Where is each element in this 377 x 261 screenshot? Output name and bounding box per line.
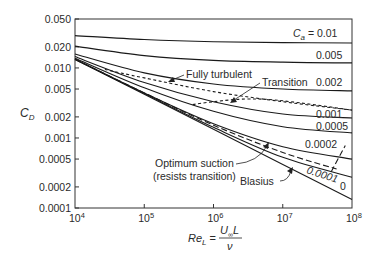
curve-label-ca-0.0001: 0.0001 [305, 163, 339, 184]
x-tick-label: 105 [138, 211, 154, 224]
annotation-optimum-suction-2: (resists transition) [153, 170, 236, 182]
y-tick-label: 0.0001 [39, 202, 71, 214]
y-tick-label: 0.0002 [39, 181, 71, 193]
arrow-blasius [280, 171, 291, 181]
y-tick-label: 0.010 [45, 62, 71, 74]
x-axis-label: ReL = U∞L ν [188, 224, 242, 252]
y-tick-label: 0.050 [45, 13, 71, 25]
y-tick-label: 0.020 [45, 41, 71, 53]
drag-coefficient-chart: 0.0500.0200.0100.0050.0020.0010.00050.00… [0, 0, 377, 261]
x-axis-ticks: 104105106107108 [69, 204, 362, 224]
svg-text:ν: ν [227, 240, 233, 252]
curve-label-ca-0.0002: 0.0002 [305, 138, 337, 150]
curve-label-ca-0.01: Ca = 0.01 [293, 27, 338, 42]
svg-text:U∞L: U∞L [220, 224, 239, 238]
y-axis-label: CD [20, 106, 35, 122]
arrow-transition [234, 83, 260, 100]
annotation-blasius: Blasius [240, 175, 274, 187]
annotation-optimum-suction-1: Optimum suction [155, 157, 234, 169]
y-axis-ticks: 0.0500.0200.0100.0050.0020.0010.00050.00… [39, 13, 79, 214]
curve-label-ca-0: 0 [340, 180, 346, 192]
y-tick-label: 0.001 [45, 132, 71, 144]
y-tick-label: 0.005 [45, 83, 71, 95]
curve-ca-0.005 [75, 46, 352, 63]
curve-label-ca-0.005: 0.005 [316, 49, 342, 61]
svg-text:ReL =: ReL = [188, 232, 216, 247]
annotation-transition: Transition [262, 76, 308, 88]
x-tick-label: 107 [277, 211, 293, 224]
curve-label-ca-0.001: 0.001 [316, 108, 342, 120]
y-tick-label: 0.002 [45, 111, 71, 123]
x-tick-label: 108 [346, 211, 362, 224]
x-tick-label: 106 [208, 211, 224, 224]
curve-label-ca-0.0005: 0.0005 [316, 120, 348, 132]
curve-label-ca-0.002: 0.002 [316, 76, 342, 88]
x-tick-label: 104 [69, 211, 85, 224]
annotation-fully-turbulent: Fully turbulent [186, 68, 252, 80]
y-tick-label: 0.0005 [39, 153, 71, 165]
